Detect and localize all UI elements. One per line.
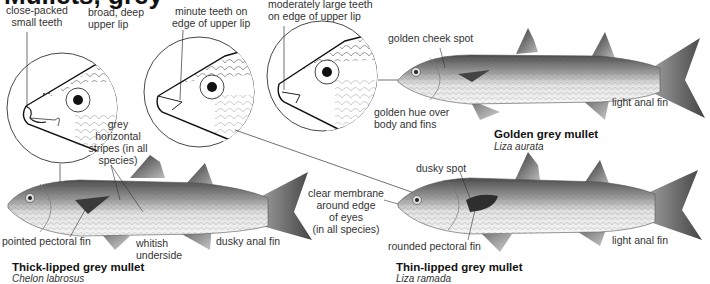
label-dusky-spot: dusky spot [416, 162, 466, 174]
label-line: around edge [306, 199, 386, 211]
label-line: species) [88, 154, 148, 166]
species-name-thick-lipped: Thick-lipped grey mullet [12, 261, 144, 273]
label-line: grey [88, 118, 148, 130]
label-golden-cheek-spot: golden cheek spot [388, 32, 473, 44]
species-name-golden: Golden grey mullet [494, 128, 598, 140]
label-line: close-packed [6, 4, 68, 16]
species-latin-thin-lipped: Liza ramada [396, 273, 451, 284]
label-rounded-pectoral-fin: rounded pectoral fin [388, 240, 481, 252]
label-line: clear membrane [306, 187, 386, 199]
label-line: minute teeth on [172, 5, 250, 17]
label-clear-membrane: clear membrane around edge of eyes (in a… [306, 187, 386, 235]
label-pointed-pectoral-fin: pointed pectoral fin [2, 235, 91, 247]
label-line: broad, deep [88, 6, 144, 18]
label-close-packed-teeth: close-packed small teeth [6, 4, 68, 28]
label-broad-upper-lip: broad, deep upper lip [88, 6, 144, 30]
label-line: of eyes [306, 211, 386, 223]
label-grey-stripes: grey horizontal stripes (in all species) [88, 118, 148, 166]
label-line: underside [136, 249, 182, 261]
label-line: upper lip [88, 18, 144, 30]
label-golden-hue: golden hue over body and fins [374, 106, 449, 130]
label-light-anal-fin-golden: light anal fin [612, 96, 668, 108]
label-whitish-underside: whitish underside [136, 237, 182, 261]
label-light-anal-fin-thin: light anal fin [612, 234, 668, 246]
species-name-thin-lipped: Thin-lipped grey mullet [396, 261, 523, 273]
label-line: whitish [136, 237, 182, 249]
label-line: body and fins [374, 118, 449, 130]
species-latin-golden: Liza aurata [494, 141, 543, 152]
label-line: golden hue over [374, 106, 449, 118]
label-line: horizontal [88, 130, 148, 142]
label-dusky-anal-fin: dusky anal fin [216, 235, 280, 247]
label-line: (in all species) [306, 223, 386, 235]
label-moderately-large-teeth: moderately large teeth on edge of upper … [268, 0, 372, 22]
label-line: edge of upper lip [172, 17, 250, 29]
detail-circle-golden [267, 21, 398, 150]
label-line: small teeth [6, 16, 68, 28]
label-line: moderately large teeth [268, 0, 372, 10]
species-latin-thick-lipped: Chelon labrosus [12, 273, 84, 284]
label-line: on edge of upper lip [268, 10, 372, 22]
label-minute-teeth: minute teeth on edge of upper lip [172, 5, 250, 29]
label-line: stripes (in all [88, 142, 148, 154]
